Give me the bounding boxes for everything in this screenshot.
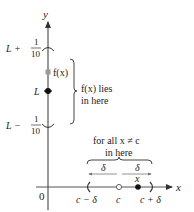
c-point-open: [116, 184, 121, 189]
x-point-label: x: [134, 173, 140, 184]
delta-left-label: δ: [101, 162, 106, 173]
lower-bound-prefix: L −: [5, 120, 23, 131]
lower-bound-num: 1: [34, 114, 39, 124]
upper-bound-num: 1: [34, 37, 39, 47]
x-point: [135, 184, 141, 190]
upper-bound-prefix: L +: [5, 43, 23, 54]
lower-bound-den: 10: [31, 126, 41, 136]
origin-label: 0: [39, 190, 45, 202]
c-label: c: [116, 194, 121, 205]
fx-point: [46, 70, 51, 75]
L-label: L: [33, 86, 40, 97]
c-plus-delta-label: c + δ: [140, 194, 161, 205]
x-brace-label-line2: in here: [105, 147, 133, 158]
x-axis-label: x: [175, 181, 181, 193]
lower-bound-tick: L − 1 10: [5, 114, 54, 136]
c-minus-delta-label: c − δ: [76, 194, 97, 205]
y-bracket-label-line2: in here: [81, 95, 109, 106]
fx-point-label: f(x): [53, 67, 68, 79]
y-range-bracket: [70, 59, 77, 124]
upper-bound-den: 10: [31, 49, 41, 59]
x-range-brace: [87, 157, 152, 164]
upper-bound-tick: L + 1 10: [5, 37, 54, 59]
delta-right-label: δ: [135, 162, 140, 173]
x-brace-label-line1: for all x ≠ c: [93, 135, 140, 146]
epsilon-delta-limit-diagram: y x 0 L + 1 10 f(x) L L − 1 10 f(x) lies…: [0, 0, 194, 212]
y-axis-label: y: [42, 8, 48, 20]
y-bracket-label-line1: f(x) lies: [81, 83, 112, 95]
